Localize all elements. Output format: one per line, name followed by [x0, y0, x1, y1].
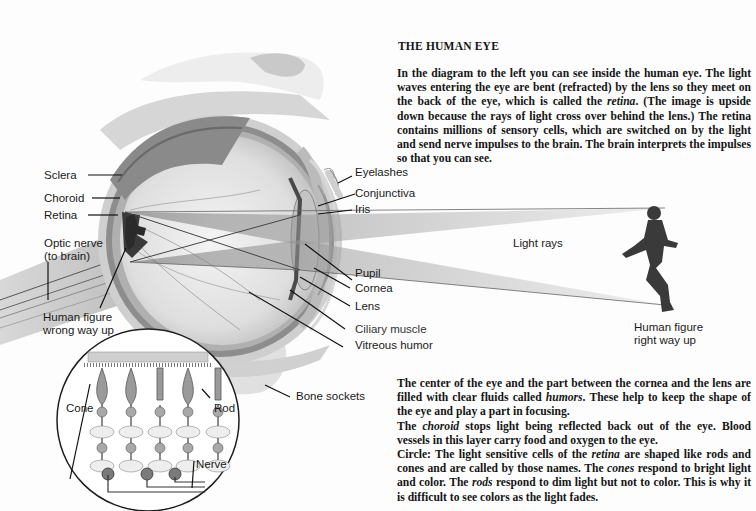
- label-light-rays: Light rays: [513, 237, 563, 250]
- nerve-cell-body: [141, 468, 153, 480]
- label-human-figure-wrong-sub: wrong way up: [43, 324, 114, 337]
- label-ciliary-muscle: Ciliary muscle: [355, 323, 427, 336]
- label-human-figure-right: Human figure: [634, 321, 703, 334]
- label-lens: Lens: [355, 300, 380, 313]
- label-cornea: Cornea: [355, 282, 393, 295]
- intro-emphasis-retina: retina: [607, 95, 635, 108]
- label-rod: Rod: [214, 402, 235, 415]
- circle-emphasis-rods: rods: [472, 476, 493, 489]
- label-pupil: Pupil: [355, 267, 381, 280]
- label-vitreous-humor: Vitreous humor: [355, 339, 433, 352]
- circle-text-a: Circle: The light sensitive cells of the: [397, 448, 592, 461]
- circle-emphasis-retina: retina: [592, 448, 620, 461]
- choroid-text-a: The: [397, 420, 422, 433]
- label-choroid: Choroid: [44, 192, 84, 205]
- human-figure-right-way-up: [622, 206, 678, 312]
- humors-emphasis: humors: [546, 391, 583, 404]
- humors-paragraph: The center of the eye and the part betwe…: [397, 377, 751, 420]
- circle-emphasis-cones: cones: [607, 462, 634, 475]
- label-conjunctiva: Conjunctiva: [355, 187, 415, 200]
- label-retina: Retina: [44, 209, 77, 222]
- label-cone: Cone: [66, 402, 94, 415]
- circle-paragraph: Circle: The light sensitive cells of the…: [397, 448, 751, 505]
- label-optic-nerve: Optic nerve: [44, 237, 103, 250]
- label-bone-sockets: Bone sockets: [296, 390, 365, 403]
- label-sclera: Sclera: [44, 169, 77, 182]
- eye-diagram-page: THE HUMAN EYE In the diagram to the left…: [0, 0, 756, 511]
- label-nerve: Nerve: [196, 458, 227, 471]
- intro-paragraph: In the diagram to the left you can see i…: [397, 67, 751, 166]
- choroid-paragraph: The choroid stops light being reflected …: [397, 420, 751, 448]
- retina-cell-circle: [57, 329, 239, 511]
- label-human-figure-right-sub: right way up: [634, 334, 696, 347]
- label-human-figure-wrong: Human figure: [43, 311, 112, 324]
- label-iris: Iris: [355, 203, 370, 216]
- label-optic-nerve-sub: (to brain): [44, 250, 90, 263]
- notes-block: The center of the eye and the part betwe…: [397, 377, 751, 505]
- choroid-emphasis: choroid: [422, 420, 459, 433]
- page-title: THE HUMAN EYE: [398, 40, 499, 52]
- label-eyelashes: Eyelashes: [355, 166, 408, 179]
